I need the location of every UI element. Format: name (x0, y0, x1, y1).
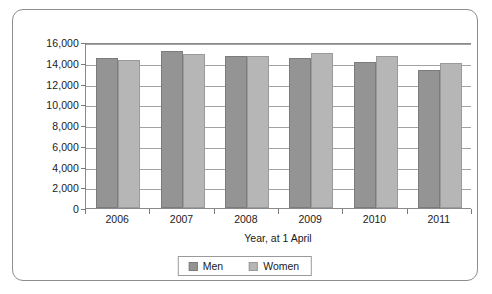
x-axis-tick-label-2006: 2006 (105, 213, 128, 225)
x-axis-title: Year, at 1 April (85, 232, 471, 244)
legend-item-women[interactable]: Women (249, 260, 299, 272)
legend-label-women: Women (263, 260, 299, 272)
bar-men-2009 (289, 58, 311, 208)
x-axis-tick-label-2009: 2009 (298, 213, 321, 225)
bar-women-2007 (183, 54, 205, 208)
legend-swatch-women-icon (249, 262, 258, 271)
y-axis-tick-label: 14,000 (46, 58, 79, 70)
y-axis-tick-mark (81, 85, 86, 86)
y-axis-tick-label: 6,000 (52, 141, 79, 153)
chart-page: 02,0004,0006,0008,00010,00012,00014,0001… (0, 0, 492, 294)
x-axis-tick-labels: 200620072008200920102011 (85, 213, 471, 229)
y-axis-tick-labels: 02,0004,0006,0008,00010,00012,00014,0001… (27, 43, 79, 209)
y-axis-tick-label: 12,000 (46, 79, 79, 91)
y-axis-tick-label: 2,000 (52, 182, 79, 194)
y-axis-tick-mark (81, 188, 86, 189)
x-axis-tick-label-2011: 2011 (428, 213, 451, 225)
y-axis-tick-mark (81, 105, 86, 106)
y-axis-tick-label: 8,000 (52, 120, 79, 132)
bar-men-2006 (96, 58, 118, 208)
bar-women-2011 (440, 63, 462, 208)
bar-men-2008 (225, 56, 247, 209)
y-axis-tick-mark (81, 43, 86, 44)
legend-item-men[interactable]: Men (189, 260, 223, 272)
y-axis-tick-label: 10,000 (46, 99, 79, 111)
legend-swatch-men-icon (189, 262, 198, 271)
x-axis-tick-label-2007: 2007 (170, 213, 193, 225)
x-axis-tick-label-2010: 2010 (363, 213, 386, 225)
bar-women-2010 (376, 56, 398, 208)
legend-label-men: Men (203, 260, 223, 272)
x-axis-tick-label-2008: 2008 (234, 213, 257, 225)
figure-frame: 02,0004,0006,0008,00010,00012,00014,0001… (12, 9, 478, 281)
y-axis-tick-mark (81, 126, 86, 127)
plot-area (85, 43, 471, 209)
bar-men-2011 (418, 70, 440, 208)
x-axis-tick-mark (471, 209, 472, 214)
bars-layer (86, 44, 471, 208)
y-axis-tick-mark (81, 64, 86, 65)
bar-men-2010 (354, 62, 376, 208)
y-axis-tick-label: 4,000 (52, 162, 79, 174)
bar-women-2009 (311, 53, 333, 208)
y-axis-tick-mark (81, 168, 86, 169)
bar-women-2006 (118, 60, 140, 208)
bar-men-2007 (161, 51, 183, 208)
y-axis-tick-label: 16,000 (46, 37, 79, 49)
y-axis-tick-label: 0 (73, 203, 79, 215)
y-axis-tick-mark (81, 147, 86, 148)
bar-women-2008 (247, 56, 269, 209)
chart-legend: Men Women (178, 256, 312, 276)
